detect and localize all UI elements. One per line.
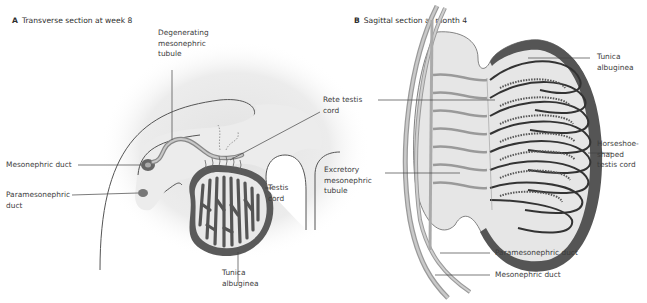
panel-a-illustration <box>72 40 370 283</box>
label-horseshoe-testis-cord: Horseshoe- shaped testis cord <box>597 139 639 171</box>
paramesonephric-duct <box>138 189 148 197</box>
label-excretory-mesonephric-tubule: Excretory mesonephric tubule <box>324 165 372 197</box>
label-tunica-albuginea-b: Tunica albuginea <box>597 52 633 73</box>
label-paramesonephric-duct-b: Paramesonephric duct <box>495 248 578 259</box>
label-rete-testis-cord: Rete testis cord <box>323 95 362 116</box>
label-mesonephric-duct-a: Mesonephric duct <box>6 160 72 171</box>
label-degenerating-tubule: Degenerating mesonephric tubule <box>158 28 209 60</box>
label-tunica-albuginea-a: Tunica albuginea <box>222 268 258 289</box>
label-mesonephric-duct-b: Mesonephric duct <box>495 270 561 281</box>
label-paramesonephric-duct-a: Paramesonephric duct <box>6 190 70 211</box>
label-testis-cord: Testis cord <box>268 183 288 204</box>
